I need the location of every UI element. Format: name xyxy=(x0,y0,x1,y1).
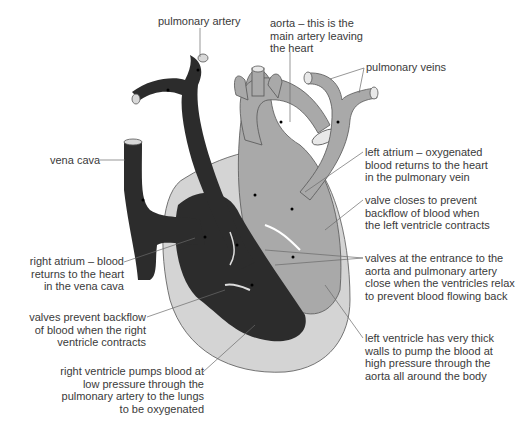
label-pulmonary-veins: pulmonary veins xyxy=(366,61,446,74)
label-left-ventricle: left ventricle has very thick walls to p… xyxy=(365,332,494,382)
label-aorta: aorta – this is the main artery leaving … xyxy=(270,17,363,55)
label-valves-semilunar: valves at the entrance to the aorta and … xyxy=(365,252,515,302)
label-left-atrium: left atrium – oxygenated blood returns t… xyxy=(365,146,488,184)
label-right-atrium: right atrium – blood returns to the hear… xyxy=(20,255,124,293)
label-valves-right: valves prevent backflow of blood when th… xyxy=(20,311,146,349)
label-vena-cava: vena cava xyxy=(50,154,100,167)
label-valve-left: valve closes to prevent backflow of bloo… xyxy=(365,194,490,232)
label-right-ventricle: right ventricle pumps blood at low press… xyxy=(40,365,204,415)
label-pulmonary-artery: pulmonary artery xyxy=(158,15,241,28)
